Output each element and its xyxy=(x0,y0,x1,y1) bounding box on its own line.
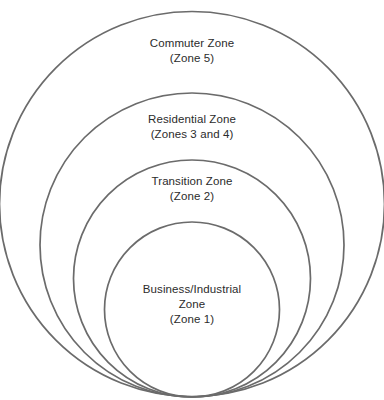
circle-zone34 xyxy=(40,93,344,397)
circle-zone2 xyxy=(74,160,311,397)
concentric-zone-diagram: Commuter Zone (Zone 5) Residential Zone … xyxy=(0,0,384,400)
zone-circles-svg xyxy=(0,0,384,400)
circle-zone1 xyxy=(105,222,280,397)
circle-zone5 xyxy=(0,12,384,397)
